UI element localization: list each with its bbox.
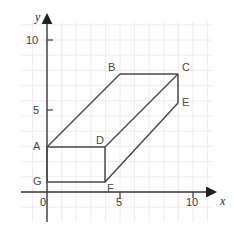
y-tick-10: 10 [26, 35, 38, 46]
x-tick-10: 10 [186, 197, 198, 208]
vertex-label-G: G [33, 176, 42, 187]
vertex-label-E: E [182, 97, 189, 108]
vertex-label-A: A [33, 141, 40, 152]
vertex-label-C: C [182, 62, 190, 73]
vertex-label-B: B [108, 62, 115, 73]
x-axis-label: x [220, 195, 225, 207]
x-tick-0: 0 [40, 197, 46, 208]
y-tick-5: 5 [33, 105, 39, 116]
coordinate-diagram: A B C D E F G 10 5 0 5 10 y x [0, 0, 234, 238]
vertex-label-D: D [96, 135, 104, 146]
x-tick-5: 5 [116, 197, 122, 208]
y-axis-label: y [35, 11, 40, 23]
vertex-label-F: F [107, 183, 114, 194]
